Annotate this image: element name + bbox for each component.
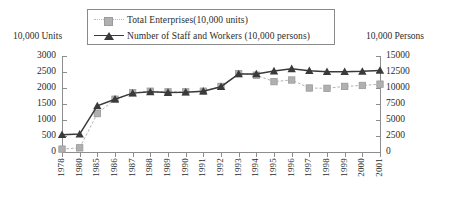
square-data-marker bbox=[271, 78, 277, 84]
left-axis-tick-label: 1000 bbox=[22, 115, 56, 124]
triangle-data-marker bbox=[217, 83, 225, 91]
left-tick-mark bbox=[63, 104, 67, 105]
x-axis-tick-label: 1996 bbox=[287, 158, 296, 177]
right-tick-mark bbox=[376, 88, 380, 89]
left-axis-tick-label: 0 bbox=[22, 147, 56, 156]
triangle-data-marker bbox=[252, 70, 260, 78]
x-axis-tick-label: 1990 bbox=[181, 158, 190, 177]
triangle-data-marker bbox=[340, 67, 348, 75]
x-tick-mark bbox=[327, 153, 328, 157]
left-tick-mark bbox=[63, 120, 67, 121]
triangle-data-marker bbox=[305, 67, 313, 75]
x-axis-tick-label: 1980 bbox=[75, 158, 84, 177]
square-data-marker bbox=[94, 110, 100, 116]
x-axis-tick-label: 1987 bbox=[128, 158, 137, 177]
square-data-marker bbox=[359, 82, 365, 88]
x-axis-tick-label: 1985 bbox=[92, 158, 101, 177]
square-data-marker bbox=[147, 88, 153, 94]
x-tick-mark bbox=[168, 153, 169, 157]
right-tick-mark bbox=[376, 56, 380, 57]
x-tick-mark bbox=[221, 153, 222, 157]
x-axis-tick-label: 1989 bbox=[163, 158, 172, 177]
left-axis-tick-label: 500 bbox=[22, 131, 56, 140]
left-tick-mark bbox=[63, 88, 67, 89]
x-tick-mark bbox=[97, 153, 98, 157]
right-axis-line bbox=[380, 56, 381, 153]
x-axis-tick-label: 1994 bbox=[251, 158, 260, 177]
x-tick-mark bbox=[380, 153, 381, 157]
x-tick-mark bbox=[345, 153, 346, 157]
x-tick-mark bbox=[203, 153, 204, 157]
right-tick-mark bbox=[376, 120, 380, 121]
left-tick-mark bbox=[63, 56, 67, 57]
x-axis-tick-label: 1992 bbox=[216, 158, 225, 177]
x-axis-tick-label: 1978 bbox=[57, 158, 66, 177]
square-data-marker bbox=[218, 83, 224, 89]
square-data-marker bbox=[288, 77, 294, 83]
x-tick-mark bbox=[115, 153, 116, 157]
triangle-data-marker bbox=[358, 67, 366, 75]
x-tick-mark bbox=[292, 153, 293, 157]
square-data-marker bbox=[306, 85, 312, 91]
triangle-data-marker bbox=[234, 70, 242, 78]
square-data-marker bbox=[165, 89, 171, 95]
triangle-data-marker bbox=[146, 88, 154, 96]
x-axis-tick-label: 1998 bbox=[322, 158, 331, 177]
square-data-marker bbox=[129, 90, 135, 96]
left-axis-unit-label: 10,000 Units bbox=[13, 31, 62, 41]
x-axis-tick-label: 1991 bbox=[198, 158, 207, 177]
right-tick-mark bbox=[376, 104, 380, 105]
square-data-marker bbox=[76, 145, 82, 151]
x-axis-tick-label: 1995 bbox=[269, 158, 278, 177]
triangle-data-marker bbox=[287, 65, 295, 73]
x-axis-tick-label: 1997 bbox=[304, 158, 313, 177]
legend-label-total-enterprises: Total Enterprises(10,000 units) bbox=[127, 15, 248, 25]
triangle-marker-icon bbox=[94, 30, 124, 42]
left-tick-mark bbox=[63, 136, 67, 137]
right-axis-unit-label: 10,000 Persons bbox=[366, 31, 424, 41]
x-axis-tick-label: 1988 bbox=[145, 158, 154, 177]
x-tick-mark bbox=[186, 153, 187, 157]
square-data-marker bbox=[341, 83, 347, 89]
right-axis-tick-label: 12500 bbox=[386, 67, 426, 76]
triangle-data-marker bbox=[270, 67, 278, 75]
right-tick-mark bbox=[376, 136, 380, 137]
right-axis-tick-label: 10000 bbox=[386, 83, 426, 92]
x-tick-mark bbox=[274, 153, 275, 157]
x-axis-tick-label: 1986 bbox=[110, 158, 119, 177]
triangle-data-marker bbox=[75, 130, 83, 138]
triangle-data-marker bbox=[199, 87, 207, 95]
triangle-data-marker bbox=[181, 88, 189, 96]
legend-item-staff-workers: Number of Staff and Workers (10,000 pers… bbox=[94, 28, 330, 44]
right-axis-tick-label: 7500 bbox=[386, 99, 426, 108]
x-tick-mark bbox=[256, 153, 257, 157]
x-tick-mark bbox=[309, 153, 310, 157]
series-line bbox=[62, 74, 380, 150]
legend-label-staff-workers: Number of Staff and Workers (10,000 pers… bbox=[127, 31, 310, 41]
x-tick-mark bbox=[80, 153, 81, 157]
series-total-enterprises bbox=[59, 70, 383, 152]
left-tick-mark bbox=[63, 152, 67, 153]
right-axis-tick-label: 2500 bbox=[386, 131, 426, 140]
series-staff-workers bbox=[58, 65, 384, 139]
x-tick-mark bbox=[150, 153, 151, 157]
x-tick-mark bbox=[362, 153, 363, 157]
left-axis-tick-label: 2500 bbox=[22, 67, 56, 76]
square-data-marker bbox=[112, 96, 118, 102]
left-axis-tick-label: 2000 bbox=[22, 83, 56, 92]
triangle-data-marker bbox=[93, 102, 101, 110]
x-axis-tick-label: 2000 bbox=[357, 158, 366, 177]
series-line bbox=[62, 69, 380, 135]
triangle-data-marker bbox=[111, 95, 119, 103]
chart-legend: Total Enterprises(10,000 units) Number o… bbox=[87, 9, 335, 45]
x-tick-mark bbox=[239, 153, 240, 157]
triangle-data-marker bbox=[323, 67, 331, 75]
square-data-marker bbox=[182, 89, 188, 95]
legend-item-total-enterprises: Total Enterprises(10,000 units) bbox=[94, 12, 330, 28]
square-marker-icon bbox=[94, 14, 124, 26]
square-data-marker bbox=[324, 85, 330, 91]
x-tick-mark bbox=[62, 153, 63, 157]
right-axis-tick-label: 15000 bbox=[386, 51, 426, 60]
square-data-marker bbox=[253, 72, 259, 78]
chart-container: Total Enterprises(10,000 units) Number o… bbox=[0, 0, 460, 203]
